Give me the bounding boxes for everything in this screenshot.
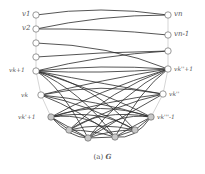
node-bottom-2 (66, 127, 72, 133)
label-vright: vk'' (169, 91, 179, 97)
node-vk (38, 92, 44, 98)
node-bottom-5 (132, 127, 138, 133)
figure-caption: (a) G (0, 152, 205, 161)
label-vright-minus-1: vk'''-1 (157, 114, 175, 120)
node-vright-minus-1 (148, 114, 154, 120)
node-v1 (33, 12, 39, 18)
label-vn: vn (174, 11, 182, 18)
node-vn (165, 12, 171, 18)
node-vk-plus-1 (33, 68, 39, 74)
label-vright-plus-1: vk''+1 (174, 66, 193, 72)
label-vk: vk (21, 92, 28, 98)
node-left-4 (33, 54, 39, 60)
node-bottom-3 (85, 135, 91, 141)
node-left-3 (33, 40, 39, 46)
graph-canvas (0, 0, 205, 174)
node-vright (160, 91, 166, 97)
node-vk-prime-plus-1 (48, 114, 54, 120)
caption-symbol: G (105, 152, 111, 161)
node-vright-plus-1 (165, 66, 171, 72)
label-vk-prime-plus-1: vk'+1 (18, 114, 36, 120)
label-vk-plus-1: vk+1 (9, 67, 25, 73)
node-right-3 (165, 48, 171, 54)
node-vn-minus-1 (165, 32, 171, 38)
caption-prefix: (a) (94, 153, 104, 161)
node-v2 (33, 26, 39, 32)
label-v2: v2 (22, 25, 30, 32)
label-vn-minus-1: vn-1 (174, 31, 189, 38)
label-v1: v1 (22, 11, 30, 18)
node-bottom-4 (112, 134, 118, 140)
